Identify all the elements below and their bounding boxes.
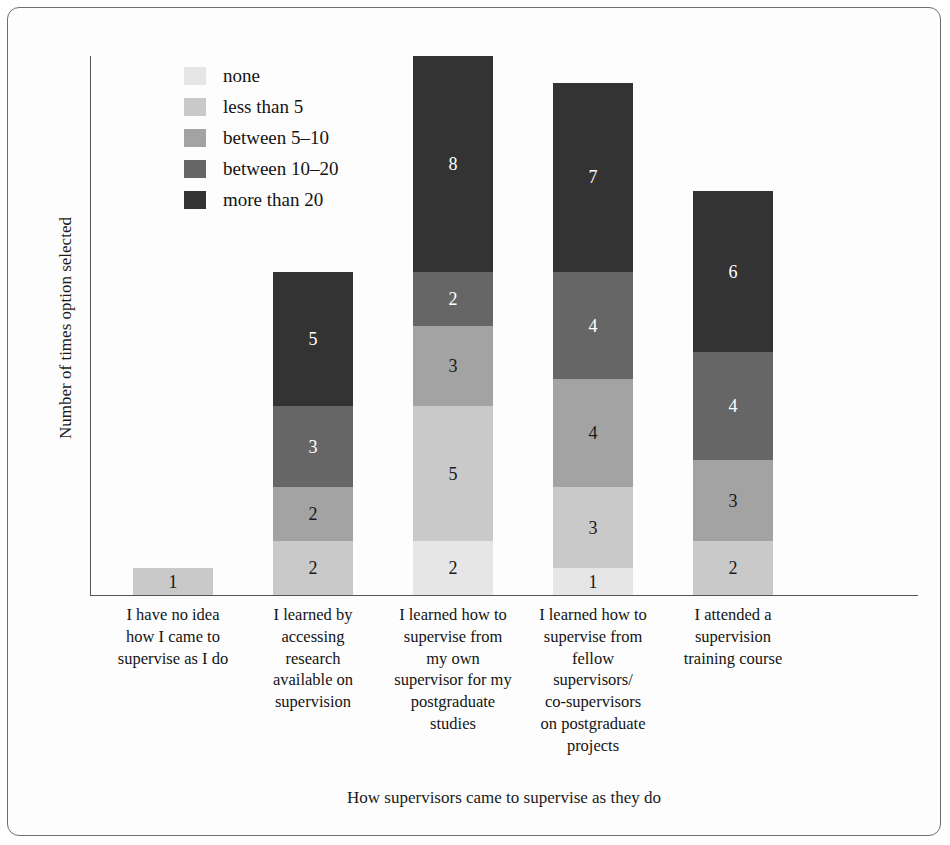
bar-segment-value: 8 xyxy=(449,155,458,173)
x-axis-tick-label: I learned how tosupervise frommy ownsupe… xyxy=(377,604,529,735)
bar-stack[interactable]: 25328 xyxy=(413,56,493,595)
x-axis-tick-label-line: postgraduate xyxy=(377,691,529,713)
bar-stack[interactable]: 2235 xyxy=(273,272,353,595)
bar-segment[interactable]: 8 xyxy=(413,56,493,272)
y-axis-title: Number of times option selected xyxy=(56,158,76,498)
x-axis-tick-label: I learned byaccessingresearchavailable o… xyxy=(237,604,389,713)
x-axis-tick-label-line: supervisor for my xyxy=(377,669,529,691)
x-axis-tick-label-line: available on xyxy=(237,669,389,691)
bar-segment[interactable]: 5 xyxy=(273,272,353,407)
bar-segment[interactable]: 4 xyxy=(553,272,633,380)
x-axis-tick-label-line: supervisors/ xyxy=(517,669,669,691)
bar-segment[interactable]: 2 xyxy=(413,541,493,595)
bar-segment[interactable]: 2 xyxy=(273,487,353,541)
x-axis-tick-label: I have no ideahow I came tosupervise as … xyxy=(97,604,249,669)
bar-segment-value: 3 xyxy=(589,519,598,537)
x-axis-tick-label-line: I attended a xyxy=(657,604,809,626)
x-axis-tick-label-line: supervision xyxy=(237,691,389,713)
bar-segment[interactable]: 3 xyxy=(693,460,773,541)
figure-frame: Number of times option selected noneless… xyxy=(7,7,941,836)
bar-segment-value: 3 xyxy=(729,492,738,510)
bar-segment[interactable]: 6 xyxy=(693,191,773,353)
bar-segment-value: 4 xyxy=(589,424,598,442)
bar-segment-value: 6 xyxy=(729,263,738,281)
bar-segment-value: 2 xyxy=(729,559,738,577)
x-axis-tick-label-line: I learned how to xyxy=(377,604,529,626)
x-axis-tick-label-line: how I came to xyxy=(97,626,249,648)
x-axis-title: How supervisors came to supervise as the… xyxy=(90,788,918,808)
x-axis-tick-label-line: supervision xyxy=(657,626,809,648)
bar-stack[interactable]: 13447 xyxy=(553,83,633,595)
bar-segment-value: 3 xyxy=(449,357,458,375)
bar-segment-value: 4 xyxy=(589,317,598,335)
x-axis-tick-label-line: supervise as I do xyxy=(97,648,249,670)
bar-segment-value: 1 xyxy=(589,573,598,591)
x-axis-tick-label-line: I learned by xyxy=(237,604,389,626)
bar-segment-value: 1 xyxy=(169,573,178,591)
bar-segment[interactable]: 2 xyxy=(273,541,353,595)
bar-segment-value: 2 xyxy=(449,559,458,577)
x-axis-tick-label-line: training course xyxy=(657,648,809,670)
x-axis-line xyxy=(90,595,918,596)
bar-stack[interactable]: 2346 xyxy=(693,191,773,595)
x-axis-tick-label: I attended asupervisiontraining course xyxy=(657,604,809,669)
bar-segment[interactable]: 1 xyxy=(133,568,213,595)
x-axis-tick-label-line: projects xyxy=(517,735,669,757)
bar-segment[interactable]: 3 xyxy=(413,326,493,407)
bar-segment-value: 2 xyxy=(449,290,458,308)
x-axis-tick-label-line: fellow xyxy=(517,648,669,670)
x-axis-tick-label-line: research xyxy=(237,648,389,670)
x-axis-tick-label: I learned how tosupervise fromfellowsupe… xyxy=(517,604,669,756)
bar-segment[interactable]: 3 xyxy=(273,406,353,487)
bar-segment-value: 2 xyxy=(309,559,318,577)
bar-segment[interactable]: 3 xyxy=(553,487,633,568)
bar-segment[interactable]: 4 xyxy=(693,352,773,460)
bar-segment-value: 7 xyxy=(589,168,598,186)
bar-stack[interactable]: 1 xyxy=(133,568,213,595)
x-axis-tick-label-line: co-supervisors xyxy=(517,691,669,713)
bar-segment-value: 5 xyxy=(449,465,458,483)
bar-segment[interactable]: 7 xyxy=(553,83,633,272)
x-axis-tick-label-line: accessing xyxy=(237,626,389,648)
bar-segment[interactable]: 2 xyxy=(693,541,773,595)
bar-segment[interactable]: 2 xyxy=(413,272,493,326)
bar-segment[interactable]: 1 xyxy=(553,568,633,595)
x-axis-tick-label-line: I have no idea xyxy=(97,604,249,626)
x-axis-tick-label-line: my own xyxy=(377,648,529,670)
bar-segment-value: 4 xyxy=(729,397,738,415)
x-axis-tick-labels: I have no ideahow I came tosupervise as … xyxy=(90,604,918,784)
plot-area: 1223525328134472346 xyxy=(90,56,918,595)
x-axis-tick-label-line: supervise from xyxy=(377,626,529,648)
x-axis-tick-label-line: I learned how to xyxy=(517,604,669,626)
bar-segment-value: 2 xyxy=(309,505,318,523)
x-axis-tick-label-line: studies xyxy=(377,713,529,735)
bar-segment[interactable]: 4 xyxy=(553,379,633,487)
x-axis-tick-label-line: supervise from xyxy=(517,626,669,648)
bar-segment[interactable]: 5 xyxy=(413,406,493,541)
bar-segment-value: 5 xyxy=(309,330,318,348)
x-axis-tick-label-line: on postgraduate xyxy=(517,713,669,735)
y-axis-title-holder: Number of times option selected xyxy=(56,158,80,498)
bar-segment-value: 3 xyxy=(309,438,318,456)
